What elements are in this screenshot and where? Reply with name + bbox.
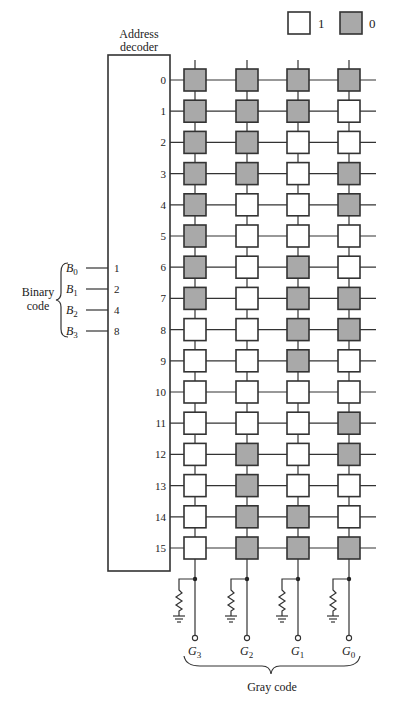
rom-cell-zero [287, 287, 309, 309]
rom-cell-zero [236, 475, 258, 497]
word-row-2 [170, 131, 376, 153]
rom-cell-one [184, 412, 206, 434]
rom-matrix [170, 60, 376, 636]
rom-cell-zero [184, 100, 206, 122]
pull-down-resistor-icon [279, 579, 298, 616]
gray-code-outputs: G3G2G1G0 [173, 577, 356, 660]
word-row-11 [170, 412, 376, 434]
pull-down-resistor-icon [176, 579, 195, 616]
rom-cell-one [287, 163, 309, 185]
rom-cell-one [287, 412, 309, 434]
decoder-output-label: 8 [161, 324, 167, 336]
decoder-output-label: 10 [155, 386, 167, 398]
binary-input-label: B3 [66, 324, 78, 340]
rom-cell-zero [184, 194, 206, 216]
binary-input-label: B2 [66, 303, 78, 319]
rom-cell-one [184, 381, 206, 403]
gray-code-brace [184, 656, 360, 674]
output-g2: G2 [225, 577, 253, 660]
rom-cell-one [338, 506, 360, 528]
rom-cell-zero [338, 319, 360, 341]
word-row-1 [170, 100, 376, 122]
decoder-output-label: 5 [161, 230, 167, 242]
rom-cell-zero [236, 443, 258, 465]
rom-cell-zero [338, 163, 360, 185]
binary-input-label: B1 [66, 282, 78, 298]
word-row-8 [170, 319, 376, 341]
word-row-7 [170, 287, 376, 309]
rom-cell-one [236, 412, 258, 434]
output-label: G2 [240, 644, 253, 660]
rom-cell-one [236, 194, 258, 216]
output-label: G3 [188, 644, 202, 660]
word-row-12 [170, 443, 376, 465]
decoder-input-weight: 4 [114, 304, 120, 316]
rom-cell-one [236, 256, 258, 278]
rom-cell-zero [287, 69, 309, 91]
output-terminal [295, 635, 300, 640]
binary-input-b2: B2 [66, 303, 108, 319]
rom-cell-zero [236, 131, 258, 153]
rom-cell-zero [236, 163, 258, 185]
word-row-5 [170, 225, 376, 247]
rom-cell-one [184, 350, 206, 372]
decoder-input-weight: 8 [114, 325, 120, 337]
binary-input-label: B0 [66, 261, 78, 277]
rom-cell-one [287, 131, 309, 153]
pull-down-resistor-icon [228, 579, 247, 616]
decoder-output-label: 9 [161, 355, 167, 367]
rom-cell-one [338, 475, 360, 497]
legend: 1 0 [288, 12, 376, 34]
rom-cell-zero [338, 537, 360, 559]
decoder-output-label: 13 [155, 480, 167, 492]
gray-code-label: Gray code [247, 680, 297, 694]
decoder-output-label: 12 [155, 448, 166, 460]
pull-down-resistor-icon [330, 579, 349, 616]
rom-cell-zero [184, 225, 206, 247]
decoder-output-label: 11 [155, 417, 166, 429]
rom-cell-one [287, 194, 309, 216]
decoder-output-label: 0 [161, 74, 167, 86]
rom-cell-zero [287, 350, 309, 372]
rom-cell-one [184, 443, 206, 465]
rom-cell-one [236, 350, 258, 372]
binary-input-b0: B0 [66, 261, 108, 277]
rom-cell-one [184, 506, 206, 528]
rom-cell-zero [236, 69, 258, 91]
rom-cell-one [236, 225, 258, 247]
rom-cell-one [184, 537, 206, 559]
rom-cell-one [338, 350, 360, 372]
output-g3: G3 [173, 577, 202, 660]
decoder-output-label: 1 [161, 105, 167, 117]
decoder-output-label: 15 [155, 542, 167, 554]
address-decoder: Address decoder 0123456789101112131415 1… [108, 27, 170, 571]
rom-cell-one [184, 475, 206, 497]
output-label: G0 [342, 644, 356, 660]
word-row-10 [170, 381, 376, 403]
legend-one-swatch [288, 12, 310, 34]
rom-cell-one [338, 131, 360, 153]
rom-cell-one [338, 225, 360, 247]
decoder-output-label: 7 [161, 292, 167, 304]
rom-cell-zero [287, 537, 309, 559]
legend-zero-label: 0 [369, 16, 376, 31]
ground-icon [173, 616, 185, 622]
ground-icon [225, 616, 237, 622]
rom-cell-zero [287, 506, 309, 528]
word-row-3 [170, 163, 376, 185]
output-label: G1 [291, 644, 304, 660]
rom-cell-zero [236, 506, 258, 528]
rom-cell-one [287, 443, 309, 465]
rom-cell-zero [184, 256, 206, 278]
rom-cell-zero [184, 131, 206, 153]
rom-cell-zero [338, 443, 360, 465]
legend-one-label: 1 [318, 16, 325, 31]
word-row-9 [170, 350, 376, 372]
rom-cell-one [338, 256, 360, 278]
decoder-title-line2: decoder [120, 40, 158, 54]
decoder-output-label: 4 [161, 199, 167, 211]
binary-inputs: Binary code B0B1B2B3 [22, 261, 108, 340]
rom-cell-zero [287, 100, 309, 122]
decoder-output-label: 14 [155, 511, 167, 523]
rom-cell-zero [338, 412, 360, 434]
